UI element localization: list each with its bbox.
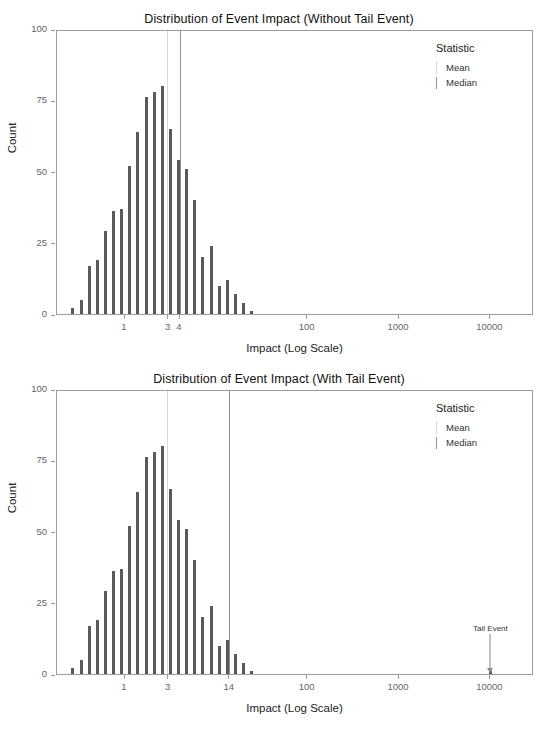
x-tick-label: 1 xyxy=(121,321,126,332)
chart-title-top: Distribution of Event Impact (Without Ta… xyxy=(0,12,558,26)
bar xyxy=(161,446,164,674)
bar xyxy=(145,457,148,674)
bar xyxy=(112,211,115,314)
bar xyxy=(112,571,115,674)
y-tick-mark xyxy=(51,172,55,173)
legend-swatch-median-icon xyxy=(436,77,437,89)
bar xyxy=(218,646,221,675)
bar xyxy=(177,520,180,674)
legend-swatch-mean-icon xyxy=(436,422,437,434)
bar xyxy=(136,132,139,314)
bar xyxy=(96,260,99,314)
chart-page: Distribution of Event Impact (Without Ta… xyxy=(0,0,558,732)
y-tick-mark xyxy=(51,532,55,533)
legend-item-median-bottom[interactable]: Median xyxy=(418,435,536,450)
bar xyxy=(489,671,492,674)
bar xyxy=(185,529,188,674)
legend-item-mean-bottom[interactable]: Mean xyxy=(418,420,536,435)
legend-bottom: Statistic Mean Median xyxy=(418,402,536,450)
bar xyxy=(169,129,172,314)
bar xyxy=(80,300,83,314)
legend-top: Statistic Mean Median xyxy=(418,42,536,90)
bar xyxy=(120,569,123,674)
y-axis-label-bottom: Count xyxy=(6,458,18,538)
bar xyxy=(250,671,253,674)
y-tick-label: 25 xyxy=(36,237,47,248)
x-tick-mark xyxy=(228,675,229,679)
annotation-label: Tail Event xyxy=(473,624,508,633)
x-tick-label: 10000 xyxy=(476,321,502,332)
legend-label-mean-top: Mean xyxy=(446,62,470,73)
legend-title-bottom: Statistic xyxy=(418,402,536,414)
bar xyxy=(145,97,148,314)
bar xyxy=(128,526,131,674)
legend-item-mean-top[interactable]: Mean xyxy=(418,60,536,75)
bar xyxy=(71,308,74,314)
x-tick-mark xyxy=(489,675,490,679)
bar xyxy=(201,257,204,314)
x-tick-mark xyxy=(306,675,307,679)
x-tick-label: 3 xyxy=(165,321,170,332)
legend-swatch-median-icon xyxy=(436,437,437,449)
x-tick-mark xyxy=(167,675,168,679)
bar xyxy=(88,626,91,674)
x-tick-label: 10000 xyxy=(476,681,502,692)
bar xyxy=(136,492,139,674)
y-tick-mark xyxy=(51,315,55,316)
chart-title-bottom: Distribution of Event Impact (With Tail … xyxy=(0,372,558,386)
bar xyxy=(153,92,156,314)
legend-label-median-bottom: Median xyxy=(446,437,477,448)
bar xyxy=(128,166,131,314)
x-tick-label: 1000 xyxy=(387,681,408,692)
x-tick-label: 100 xyxy=(299,321,315,332)
bar xyxy=(88,266,91,314)
bar xyxy=(185,169,188,314)
x-tick-mark xyxy=(398,675,399,679)
y-tick-mark xyxy=(51,461,55,462)
y-tick-mark xyxy=(51,603,55,604)
y-tick-label: 75 xyxy=(36,454,47,465)
legend-label-median-top: Median xyxy=(446,77,477,88)
x-tick-mark xyxy=(398,315,399,319)
y-tick-mark xyxy=(51,243,55,244)
y-tick-label: 100 xyxy=(31,383,47,394)
bar xyxy=(234,654,237,674)
bar xyxy=(153,452,156,674)
bar xyxy=(210,606,213,674)
chart-panel-with-tail-event: Distribution of Event Impact (With Tail … xyxy=(0,372,558,724)
bar xyxy=(71,668,74,674)
bar xyxy=(226,280,229,314)
y-tick-label: 75 xyxy=(36,94,47,105)
y-tick-label: 0 xyxy=(42,668,47,679)
bar xyxy=(242,303,245,314)
chart-panel-without-tail-event: Distribution of Event Impact (Without Ta… xyxy=(0,12,558,364)
bar xyxy=(234,294,237,314)
bar xyxy=(96,620,99,674)
bar xyxy=(250,311,253,314)
y-tick-mark xyxy=(51,101,55,102)
bar xyxy=(201,617,204,674)
y-tick-label: 25 xyxy=(36,597,47,608)
y-tick-label: 0 xyxy=(42,308,47,319)
x-tick-label: 4 xyxy=(176,321,181,332)
x-axis-label-top: Impact (Log Scale) xyxy=(56,342,533,354)
bar xyxy=(193,200,196,314)
y-tick-mark xyxy=(51,675,55,676)
legend-item-median-top[interactable]: Median xyxy=(418,75,536,90)
bar xyxy=(80,660,83,674)
x-tick-mark xyxy=(489,315,490,319)
x-tick-label: 14 xyxy=(223,681,234,692)
x-tick-mark xyxy=(124,315,125,319)
x-tick-label: 100 xyxy=(299,681,315,692)
y-tick-mark xyxy=(51,30,55,31)
y-tick-label: 50 xyxy=(36,166,47,177)
x-axis-label-bottom: Impact (Log Scale) xyxy=(56,702,533,714)
legend-swatch-mean-icon xyxy=(436,62,437,74)
x-tick-label: 1 xyxy=(121,681,126,692)
bar xyxy=(242,663,245,674)
y-tick-mark xyxy=(51,390,55,391)
y-tick-label: 100 xyxy=(31,23,47,34)
bar xyxy=(120,209,123,314)
x-tick-mark xyxy=(167,315,168,319)
x-tick-mark xyxy=(124,675,125,679)
